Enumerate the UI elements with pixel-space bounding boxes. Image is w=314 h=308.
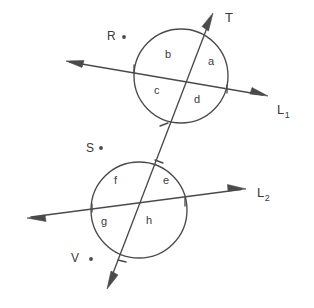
tick-T-upper-icon [160,123,168,126]
region-label-e: e [163,175,169,186]
region-label-h: h [146,215,152,226]
point-label-R: R [107,30,116,42]
point-label-V: V [71,252,79,264]
line-L2-right-arrowhead [228,185,247,192]
region-label-g: g [101,216,107,227]
region-label-d: d [194,94,200,105]
line-label-L2-subscript: 2 [264,193,270,203]
diagram-canvas [0,0,314,308]
geometry-diagram: a b c d e f g h R S V T L1 L2 [0,0,314,308]
point-dot-R [122,35,126,39]
line-L1-left-arrowhead [66,61,84,68]
line-T-top-arrowhead [202,13,213,31]
region-label-f: f [114,175,117,186]
point-dot-V [89,257,93,261]
tick-T-bottom-icon [118,260,126,262]
line-label-L1: L1 [277,103,290,120]
region-label-c: c [154,85,160,96]
line-label-L1-subscript: 1 [284,110,290,120]
region-label-a: a [208,56,214,67]
region-label-b: b [165,49,171,60]
line-T [110,20,210,281]
point-label-S: S [86,142,94,154]
line-L1-right-arrowhead [250,88,268,97]
line-T-bottom-arrowhead [107,271,118,289]
line-label-T: T [225,11,233,24]
lower-circle [91,162,187,258]
point-dot-S [99,146,103,150]
line-L1 [70,62,263,95]
line-label-T-text: T [225,10,233,25]
line-label-L2: L2 [257,186,270,203]
